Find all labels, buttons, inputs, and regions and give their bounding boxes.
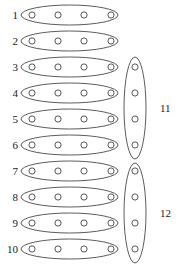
edge-label-3: 3 (13, 61, 19, 73)
vertex-node[interactable] (81, 220, 87, 226)
vertex-node[interactable] (132, 220, 138, 226)
vertex-node[interactable] (108, 142, 114, 148)
vertex-node[interactable] (108, 116, 114, 122)
vertex-node[interactable] (55, 220, 61, 226)
vertex-node[interactable] (55, 246, 61, 252)
vertex-node[interactable] (108, 194, 114, 200)
edge-label-5: 5 (13, 113, 19, 125)
vertex-node[interactable] (29, 246, 35, 252)
vertex-node[interactable] (29, 12, 35, 18)
edge-label-12: 12 (160, 207, 171, 219)
hyperedge-row-6[interactable]: 6 (13, 135, 119, 155)
vertex-node[interactable] (29, 116, 35, 122)
edge-label-11: 11 (160, 102, 171, 114)
diagram-canvas: 1 2 3 (0, 0, 180, 272)
vertex-node[interactable] (132, 142, 138, 148)
edge-label-1: 1 (13, 9, 19, 21)
vertex-node[interactable] (81, 194, 87, 200)
vertex-node[interactable] (81, 64, 87, 70)
vertex-node[interactable] (132, 194, 138, 200)
hyperedge-row-5[interactable]: 5 (13, 109, 119, 129)
vertex-node[interactable] (29, 220, 35, 226)
vertex-node[interactable] (55, 116, 61, 122)
edge-label-7: 7 (13, 165, 19, 177)
vertex-node[interactable] (29, 90, 35, 96)
vertex-node[interactable] (29, 142, 35, 148)
vertex-node[interactable] (108, 64, 114, 70)
hyperedge-row-1[interactable]: 1 (13, 5, 119, 25)
vertex-node[interactable] (55, 38, 61, 44)
hyperedge-row-9[interactable]: 9 (13, 213, 119, 233)
vertex-node[interactable] (29, 168, 35, 174)
edge-label-10: 10 (7, 243, 19, 255)
vertex-node[interactable] (108, 12, 114, 18)
vertex-node[interactable] (108, 90, 114, 96)
vertex-node[interactable] (29, 194, 35, 200)
hyperedge-row-8[interactable]: 8 (13, 187, 119, 207)
vertex-node[interactable] (55, 168, 61, 174)
vertex-node[interactable] (81, 38, 87, 44)
edge-label-2: 2 (13, 35, 19, 47)
edge-label-9: 9 (13, 217, 19, 229)
vertex-node[interactable] (108, 38, 114, 44)
vertex-node[interactable] (55, 64, 61, 70)
vertex-node[interactable] (132, 168, 138, 174)
vertex-node[interactable] (55, 90, 61, 96)
vertex-node[interactable] (55, 12, 61, 18)
vertex-node[interactable] (81, 12, 87, 18)
vertex-node[interactable] (29, 38, 35, 44)
vertex-node[interactable] (81, 168, 87, 174)
vertex-node[interactable] (108, 246, 114, 252)
vertex-node[interactable] (81, 246, 87, 252)
hyperedge-row-10[interactable]: 10 (7, 239, 118, 259)
hyperedge-column-12[interactable]: 12 (124, 163, 171, 263)
vertex-node[interactable] (132, 116, 138, 122)
hyperedge-row-3[interactable]: 3 (13, 57, 119, 77)
vertex-node[interactable] (81, 116, 87, 122)
vertical-edges-group: 11 12 (124, 57, 171, 263)
vertex-node[interactable] (55, 142, 61, 148)
hyperedge-row-4[interactable]: 4 (13, 83, 119, 103)
edge-label-8: 8 (13, 191, 19, 203)
vertex-node[interactable] (108, 220, 114, 226)
vertex-node[interactable] (81, 142, 87, 148)
vertex-node[interactable] (132, 64, 138, 70)
vertex-node[interactable] (55, 194, 61, 200)
horizontal-edges-group: 1 2 3 (7, 5, 118, 259)
hyperedge-row-2[interactable]: 2 (13, 31, 119, 51)
hypergraph-diagram: 1 2 3 (0, 0, 180, 272)
vertex-node[interactable] (132, 90, 138, 96)
edge-label-4: 4 (13, 87, 19, 99)
vertex-node[interactable] (29, 64, 35, 70)
vertex-node[interactable] (132, 246, 138, 252)
vertex-node[interactable] (108, 168, 114, 174)
vertex-node[interactable] (81, 90, 87, 96)
hyperedge-column-11[interactable]: 11 (124, 57, 171, 159)
hyperedge-row-7[interactable]: 7 (13, 161, 119, 181)
edge-label-6: 6 (13, 139, 19, 151)
